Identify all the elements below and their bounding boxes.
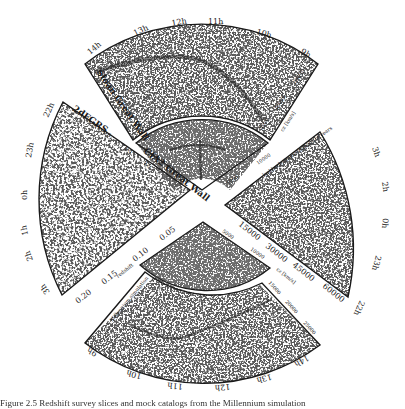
svg-text:23h: 23h: [24, 142, 36, 159]
svg-text:redshift: redshift: [115, 262, 134, 279]
svg-text:0.15: 0.15: [100, 269, 120, 287]
svg-text:11h: 11h: [208, 17, 223, 26]
svg-text:0h: 0h: [380, 218, 390, 229]
svg-text:0.05: 0.05: [158, 225, 178, 243]
svg-text:3h: 3h: [38, 282, 51, 296]
svg-text:15000: 15000: [267, 280, 282, 296]
svg-text:3h: 3h: [370, 146, 382, 159]
svg-text:22h: 22h: [352, 299, 367, 317]
figure-caption: Figure 2.5 Redshift survey slices and mo…: [0, 398, 405, 409]
svg-text:0.20: 0.20: [74, 288, 94, 306]
svg-text:12h: 12h: [215, 382, 231, 392]
svg-text:22h: 22h: [42, 101, 57, 119]
svg-text:2h: 2h: [23, 250, 35, 263]
right-ra-ticks: 3h 2h 0h 23h 22h: [352, 146, 391, 317]
svg-text:2h: 2h: [380, 181, 390, 192]
svg-text:1h: 1h: [19, 225, 30, 237]
svg-text:23h: 23h: [370, 254, 383, 271]
survey-wedge-diagram: 14h 13h 12h 11h 10h 9h Sloan Great Wall …: [0, 0, 405, 409]
svg-text:11h: 11h: [167, 381, 183, 391]
svg-text:0h: 0h: [20, 190, 29, 200]
